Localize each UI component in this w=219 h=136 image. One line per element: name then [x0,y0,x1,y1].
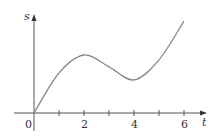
tick-label-6: 6 [181,118,188,131]
tick-label-2: 2 [81,118,88,131]
x-axis-arrow-icon [200,111,207,116]
y-axis-label: s [24,10,30,23]
x-axis-label: t [202,116,207,129]
origin-label: 0 [25,118,32,131]
position-curve [34,21,184,113]
chart-canvas: 0 2 4 6 t s [0,0,219,136]
tick-label-4: 4 [131,118,138,131]
y-axis-arrow-icon [32,14,37,21]
